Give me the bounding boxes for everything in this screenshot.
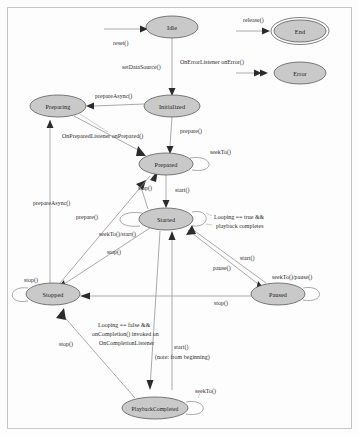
edge-label-looping-true-1: Looping == true && [214,214,265,220]
edge-label-seekto-prepared: seekTo() [210,149,231,156]
edge-label-start-1: start() [175,187,189,194]
state-node-error[interactable]: Error [274,62,326,84]
edge-label-prepare-1: prepare() [180,128,202,135]
edge-prepareasync-1 [94,104,144,106]
edge-stop-4-loop [12,288,28,302]
state-label-started: Started [157,216,176,223]
arrowhead-onerror-b [260,70,268,77]
state-label-playbackcompleted: PlaybackCompleted [132,406,179,412]
state-node-idle[interactable]: Idle [146,16,198,38]
state-node-initialized[interactable]: Initialized [144,95,200,117]
leader-onprepared [80,114,108,132]
state-node-started[interactable]: Started [139,208,193,230]
edge-label-prepareasync-2: prepareAsync() [33,200,70,207]
edge-label-onprepared: OnPreparedListener onPrepared() [62,133,143,140]
state-label-paused: Paused [269,291,288,298]
state-label-prepared: Prepared [155,161,179,168]
edge-looping-false [150,231,160,388]
arrowhead-prepareasync-1 [86,103,94,110]
edge-label-looping-false-2: onCompletion() invoked on [92,331,159,338]
edge-label-stop-loop: stop() [24,277,38,284]
edge-seekto-pbc [186,401,203,414]
edge-label-seekto-pbc: seekTo() [195,388,216,395]
arrowhead-onprepared [136,146,146,156]
state-node-stopped[interactable]: Stopped [26,283,80,305]
edge-labels-layer: reset() release() OnErrorListener onErro… [24,17,312,395]
edge-prepare-1 [170,117,172,146]
edge-label-seekto-start: seekTo()/start() [99,231,136,238]
edge-label-start-3: start() [174,344,188,351]
arrowhead-release [262,28,270,35]
arrowhead-stop-pbc [56,308,66,320]
arrowhead-prepareasync-2 [47,120,54,128]
edge-label-onerror: OnErrorListener onError() [180,59,244,66]
arrowhead-start-1 [163,200,170,208]
edge-label-prepareasync-1: prepareAsync() [95,93,132,100]
edge-label-seekto-pause: seekTo()/pause() [272,274,312,281]
state-label-initialized: Initialized [159,103,186,110]
edge-label-looping-true-2: playback completes [216,223,264,229]
edge-label-reset: reset() [113,40,128,47]
edge-label-stop-4: stop() [59,341,73,348]
edge-label-stop-2: stop() [107,249,121,256]
state-label-end: End [295,28,306,35]
state-node-prepared[interactable]: Prepared [139,153,193,175]
edge-label-stop-1: stop() [138,185,152,192]
edge-prepare-2 [60,176,150,283]
state-node-playbackcompleted[interactable]: PlaybackCompleted [122,397,188,419]
state-node-paused[interactable]: Paused [251,283,305,305]
edge-label-start-3-note: (note: from beginning) [155,354,210,361]
arrowhead-looping-false [147,380,154,390]
state-label-stopped: Stopped [43,291,65,298]
leader-looping-true-1 [206,213,212,216]
edge-label-start-2: start() [240,255,254,262]
edge-start-2 [192,229,266,283]
arrowhead-stop-3 [80,293,90,300]
state-diagram-canvas: Idle End Error Initialized Preparing [0,0,359,436]
state-label-idle: Idle [167,24,177,31]
edge-label-stop-3: stop() [214,300,228,307]
state-label-error: Error [293,70,307,77]
edge-label-looping-false-3: OnCompletionListener [99,340,154,346]
edge-label-pause: pause() [213,265,231,272]
edge-label-prepare-2: prepare() [76,214,98,221]
state-label-preparing: Preparing [46,103,71,110]
edge-label-setdatasource: setDataSource() [122,64,161,71]
state-node-end[interactable]: End [271,18,329,45]
edge-label-release: release() [243,17,264,24]
edge-looping-true [192,211,206,226]
arrowhead-start-3 [169,231,176,240]
edge-seekto-pause [303,287,320,300]
state-node-preparing[interactable]: Preparing [30,95,86,117]
state-diagram-container: Idle End Error Initialized Preparing [0,0,359,436]
edge-label-looping-false-1: Looping == false && [98,322,151,328]
leader-looping-true-2 [206,224,212,225]
